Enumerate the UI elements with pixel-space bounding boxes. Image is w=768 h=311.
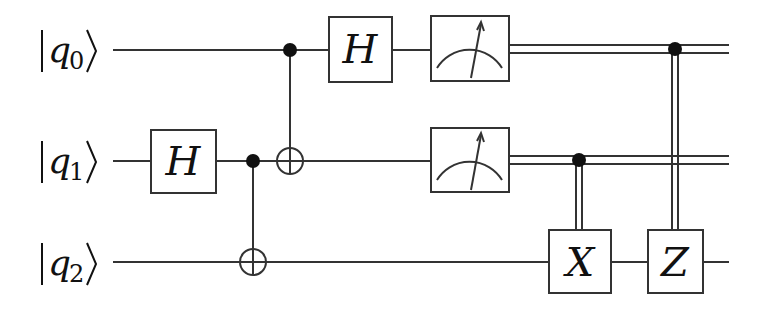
classical-wire-q0 [509,45,729,53]
ket-subscript: 1 [69,158,84,186]
control-dot [668,42,682,56]
svg-text:X: X [563,239,596,285]
qubit-label-q1: q 1 [42,140,96,186]
qubit-label-q2: q 2 [42,242,96,288]
svg-text:Z: Z [659,239,690,285]
ket-subscript: 2 [69,260,84,288]
ket-base: q [48,140,71,181]
classically-controlled-x-gate: X [549,153,611,293]
control-dot [572,153,586,167]
classically-controlled-z-gate: Z [648,42,703,293]
measurement-gate-q0 [431,16,509,81]
ket-subscript: 0 [69,47,84,75]
ket-base: q [48,242,71,283]
classical-wire-q1 [509,156,729,164]
control-dot [246,154,260,168]
quantum-circuit: q 0 q 1 q 2 H [0,0,768,311]
cnot-gate-q1-q2 [240,154,266,275]
svg-text:H: H [342,26,379,72]
ket-base: q [48,29,71,70]
svg-text:H: H [165,138,202,184]
hadamard-gate-q0: H [329,17,392,82]
control-dot [283,43,297,57]
cnot-gate-q0-q1 [277,43,303,174]
qubit-label-q0: q 0 [42,29,96,75]
hadamard-gate-q1: H [151,130,216,193]
measurement-gate-q1 [431,128,509,192]
